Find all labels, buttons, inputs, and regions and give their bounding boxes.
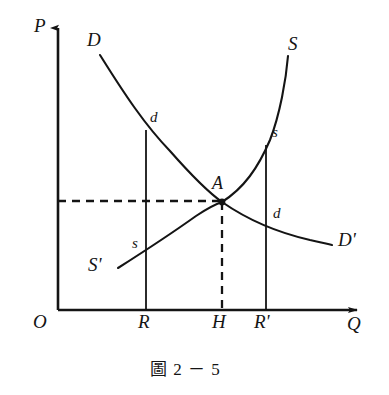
- equilibrium-point-marker: [219, 199, 226, 206]
- demand-upper-marker-label: d: [150, 110, 158, 125]
- demand-curve: [100, 55, 332, 245]
- tick-label-H: H: [212, 312, 226, 331]
- supply-curve: [118, 56, 288, 268]
- equilibrium-point-label: A: [212, 174, 223, 192]
- supply-demand-diagram: [0, 0, 389, 395]
- demand-lower-marker-label: d: [273, 206, 281, 221]
- supply-upper-marker-label: s: [272, 125, 278, 140]
- y-axis-label: P: [34, 16, 46, 35]
- supply-curve-start-label: S': [88, 255, 102, 274]
- figure-caption: 圖 2 － 5: [150, 355, 221, 380]
- demand-curve-start-label: D: [87, 30, 101, 49]
- figure-container: P Q O R H R' D S D' S' d s d s A 圖 2 － 5: [0, 0, 389, 395]
- demand-curve-end-label: D': [338, 230, 356, 249]
- x-axis-label: Q: [347, 314, 361, 333]
- tick-label-R-prime: R': [254, 312, 270, 331]
- tick-label-R: R: [138, 312, 150, 331]
- supply-lower-marker-label: s: [132, 236, 138, 251]
- origin-label: O: [33, 312, 47, 331]
- supply-curve-end-label: S: [288, 34, 298, 53]
